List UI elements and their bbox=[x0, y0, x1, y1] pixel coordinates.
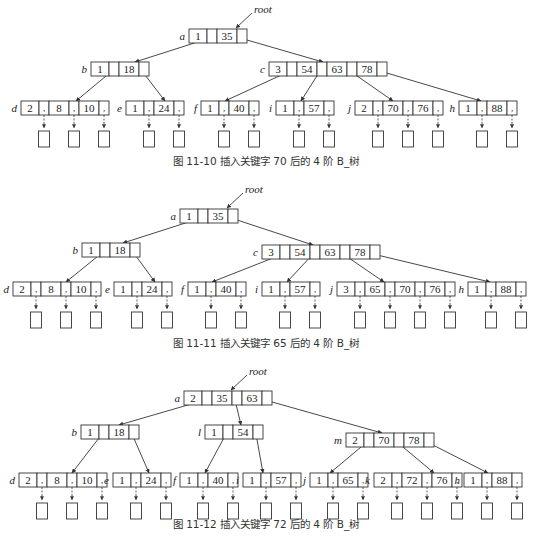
null-pointer-mark: , bbox=[210, 284, 212, 294]
node-label: i bbox=[255, 283, 258, 295]
key-value: 8 bbox=[56, 102, 62, 114]
failure-node-box bbox=[132, 312, 143, 328]
null-pointer-mark: , bbox=[389, 284, 391, 294]
null-pointer-mark: , bbox=[101, 475, 103, 485]
null-pointer-mark: , bbox=[232, 475, 234, 485]
node-label: c bbox=[260, 63, 265, 75]
key-value: 70 bbox=[388, 102, 400, 114]
pointer-cell bbox=[99, 425, 109, 439]
key-count: 1 bbox=[470, 474, 476, 486]
pointer-cell bbox=[129, 425, 139, 439]
key-count: 2 bbox=[25, 474, 31, 486]
failure-node-box bbox=[516, 312, 527, 328]
node-label: h bbox=[450, 102, 456, 114]
null-pointer-mark: , bbox=[295, 475, 297, 485]
failure-node-box bbox=[294, 131, 305, 147]
root-pointer-arrow bbox=[236, 13, 252, 28]
key-value: 63 bbox=[332, 63, 344, 75]
key-value: 78 bbox=[355, 246, 367, 258]
node-label: i bbox=[269, 102, 272, 114]
key-value: 57 bbox=[295, 283, 307, 295]
key-count: 2 bbox=[27, 102, 33, 114]
null-pointer-mark: , bbox=[103, 103, 105, 113]
null-pointer-mark: , bbox=[490, 284, 492, 294]
failure-node-box bbox=[452, 503, 463, 519]
pointer-cell bbox=[109, 62, 119, 76]
node-label: c bbox=[253, 246, 258, 258]
child-pointer-arrow bbox=[132, 434, 149, 473]
key-count: 1 bbox=[186, 210, 192, 222]
failure-node-box bbox=[31, 312, 42, 328]
failure-node-box bbox=[477, 131, 488, 147]
failure-node-box bbox=[261, 503, 272, 519]
failure-node-box bbox=[385, 312, 396, 328]
key-count: 1 bbox=[207, 102, 213, 114]
figure-caption: 图 11-12 插入关键字 72 后的 4 阶 B_树 bbox=[173, 518, 360, 531]
key-value: 40 bbox=[234, 102, 246, 114]
failure-node-box bbox=[144, 131, 155, 147]
null-pointer-mark: , bbox=[253, 103, 255, 113]
child-pointer-arrow bbox=[256, 434, 263, 473]
failure-node-box bbox=[422, 503, 433, 519]
key-value: 57 bbox=[276, 474, 288, 486]
pointer-cell bbox=[287, 62, 297, 76]
key-count: 2 bbox=[352, 434, 358, 446]
key-value: 24 bbox=[146, 474, 158, 486]
pointer-cell bbox=[377, 62, 387, 76]
child-pointer-arrow bbox=[380, 71, 481, 101]
node-label: j bbox=[301, 474, 306, 486]
failure-node-box bbox=[228, 503, 239, 519]
null-pointer-mark: , bbox=[35, 284, 37, 294]
key-count: 1 bbox=[249, 474, 255, 486]
key-value: 54 bbox=[295, 246, 307, 258]
pointer-cell bbox=[207, 29, 217, 43]
key-value: 18 bbox=[124, 63, 136, 75]
key-value: 63 bbox=[325, 246, 337, 258]
pointer-cell bbox=[394, 433, 404, 447]
failure-node-box bbox=[310, 312, 321, 328]
null-pointer-mark: , bbox=[43, 103, 45, 113]
key-count: 3 bbox=[268, 246, 274, 258]
failure-node-box bbox=[415, 312, 426, 328]
null-pointer-mark: , bbox=[359, 284, 361, 294]
null-pointer-mark: , bbox=[516, 475, 518, 485]
failure-node-box bbox=[219, 131, 230, 147]
root-label: root bbox=[254, 3, 273, 15]
key-value: 40 bbox=[221, 283, 233, 295]
pointer-cell bbox=[228, 209, 238, 223]
node-label: d bbox=[10, 474, 16, 486]
failure-node-box bbox=[236, 312, 247, 328]
pointer-cell bbox=[364, 433, 374, 447]
key-count: 1 bbox=[97, 63, 103, 75]
null-pointer-mark: , bbox=[223, 103, 225, 113]
node-label: l bbox=[198, 426, 201, 438]
null-pointer-mark: , bbox=[284, 284, 286, 294]
node-label: h bbox=[459, 283, 465, 295]
failure-node-box bbox=[328, 503, 339, 519]
node-label: b bbox=[72, 426, 78, 438]
key-count: 1 bbox=[316, 474, 322, 486]
key-count: 1 bbox=[88, 244, 94, 256]
key-count: 1 bbox=[194, 283, 200, 295]
node-label: a bbox=[180, 30, 186, 42]
failure-node-box bbox=[162, 312, 173, 328]
failure-node-box bbox=[39, 131, 50, 147]
node-label: e bbox=[104, 474, 109, 486]
btree-node-m bbox=[346, 433, 434, 447]
btree-node-a bbox=[184, 391, 272, 405]
failure-node-box bbox=[358, 503, 369, 519]
node-label: e bbox=[105, 283, 110, 295]
node-label: e bbox=[117, 102, 122, 114]
failure-node-box bbox=[324, 131, 335, 147]
key-count: 1 bbox=[465, 102, 471, 114]
null-pointer-mark: , bbox=[520, 284, 522, 294]
key-value: 70 bbox=[400, 283, 412, 295]
null-pointer-mark: , bbox=[65, 284, 67, 294]
null-pointer-mark: , bbox=[377, 103, 379, 113]
child-pointer-arrow bbox=[72, 434, 102, 473]
root-pointer-arrow bbox=[231, 375, 247, 390]
key-count: 1 bbox=[120, 283, 126, 295]
node-label: b bbox=[73, 244, 79, 256]
key-count: 2 bbox=[380, 474, 386, 486]
failure-node-box bbox=[99, 131, 110, 147]
